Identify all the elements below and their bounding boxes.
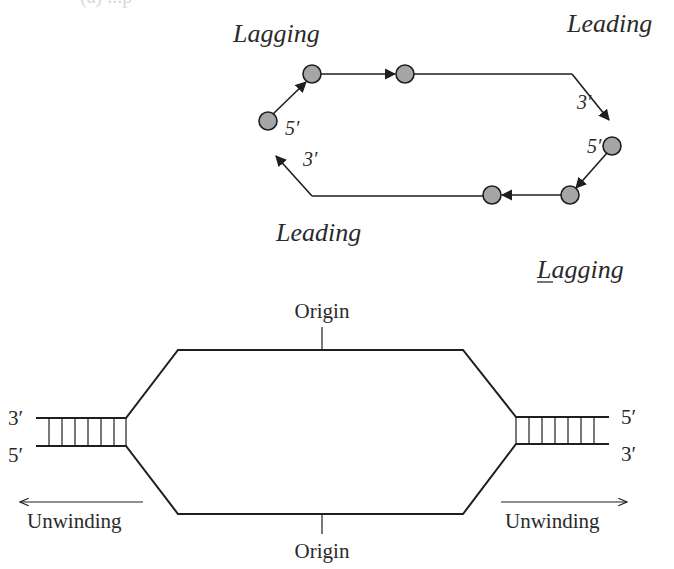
bubble-top-strand bbox=[36, 350, 609, 418]
lagging-fragment-3 bbox=[576, 153, 607, 188]
label-3prime-right: 3′ bbox=[576, 91, 592, 113]
cropped-header-text: (a) ...p bbox=[80, 0, 132, 8]
label-leading-top: Leading bbox=[566, 9, 652, 38]
okazaki-diagram: Lagging Leading Leading Lagging 5′ 3′ 3′… bbox=[232, 9, 652, 284]
label-right-3prime: 3′ bbox=[621, 442, 636, 466]
label-lagging-bottom: Lagging bbox=[536, 255, 624, 284]
label-origin-top: Origin bbox=[295, 299, 350, 323]
primer-circle bbox=[483, 186, 501, 204]
label-unwinding-left: Unwinding bbox=[27, 509, 122, 533]
label-origin-bottom: Origin bbox=[295, 539, 350, 563]
label-right-5prime: 5′ bbox=[621, 405, 636, 429]
primer-circle bbox=[603, 137, 621, 155]
label-5prime-left: 5′ bbox=[285, 117, 300, 139]
replication-fork-figure: (a) ...p Lagging Leading Leading Lagging… bbox=[0, 0, 674, 569]
label-3prime-left: 3′ bbox=[302, 148, 318, 170]
right-duplex-rungs bbox=[516, 417, 594, 444]
left-duplex-rungs bbox=[49, 418, 126, 446]
primer-circle bbox=[396, 65, 414, 83]
label-lagging-top: Lagging bbox=[232, 19, 320, 48]
primer-circle bbox=[259, 112, 277, 130]
label-leading-bottom: Leading bbox=[275, 218, 361, 247]
primer-circle bbox=[303, 65, 321, 83]
replication-bubble-diagram: Origin Origin 3′ 5′ 5′ bbox=[8, 299, 636, 563]
primer-circle bbox=[561, 186, 579, 204]
label-left-5prime: 5′ bbox=[8, 443, 23, 467]
bubble-bottom-strand bbox=[36, 444, 609, 514]
label-unwinding-right: Unwinding bbox=[505, 509, 600, 533]
label-left-3prime: 3′ bbox=[8, 406, 23, 430]
lagging-fragment-1 bbox=[272, 82, 306, 115]
label-5prime-right: 5′ bbox=[587, 135, 602, 157]
